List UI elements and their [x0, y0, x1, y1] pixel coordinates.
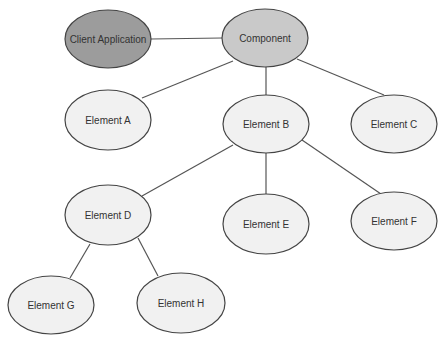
- node-component: Component: [222, 9, 308, 67]
- node-client: Client Application: [65, 10, 151, 68]
- node-e: Element E: [223, 194, 309, 254]
- node-label: Client Application: [70, 34, 147, 45]
- node-label: Element D: [85, 210, 132, 221]
- node-label: Element F: [371, 216, 417, 227]
- tree-diagram: Client ApplicationComponentElement AElem…: [0, 0, 444, 341]
- node-h: Element H: [137, 273, 225, 333]
- node-b: Element B: [223, 95, 309, 153]
- edge-component-c: [297, 59, 384, 95]
- nodes-layer: Client ApplicationComponentElement AElem…: [8, 9, 437, 334]
- edge-component-a: [142, 61, 233, 98]
- edge-d-h: [138, 238, 158, 276]
- node-d: Element D: [65, 185, 151, 245]
- node-g: Element G: [8, 276, 94, 334]
- node-label: Element C: [371, 119, 418, 130]
- edge-b-d: [142, 145, 233, 196]
- node-a: Element A: [65, 90, 151, 150]
- node-label: Component: [239, 33, 291, 44]
- node-label: Element G: [27, 300, 74, 311]
- node-f: Element F: [351, 192, 437, 250]
- node-label: Element H: [158, 298, 205, 309]
- node-label: Element B: [243, 119, 289, 130]
- edge-client-component: [151, 38, 222, 39]
- edge-d-g: [70, 244, 90, 278]
- node-c: Element C: [351, 95, 437, 153]
- node-label: Element E: [243, 219, 289, 230]
- node-label: Element A: [85, 115, 131, 126]
